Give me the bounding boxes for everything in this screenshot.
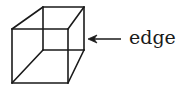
cube-edge-connector-tr bbox=[68, 7, 84, 29]
wireframe-cube bbox=[12, 7, 84, 83]
cube-edge-connector-bl bbox=[12, 50, 43, 83]
cube-edge-connector-br bbox=[68, 50, 84, 83]
cube-edge-connector-tl bbox=[12, 7, 43, 29]
arrow-pointing-to-edge bbox=[88, 35, 121, 43]
edge-label: edge bbox=[129, 24, 176, 50]
